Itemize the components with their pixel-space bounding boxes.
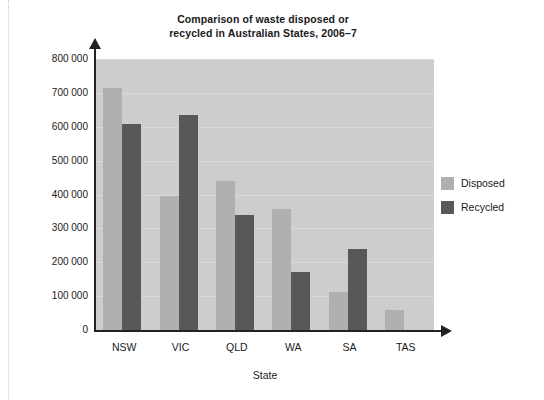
x-axis-tick-label-nsw: NSW [96,341,152,353]
bar-qld-disposed [216,181,235,330]
bar-wa-disposed [272,209,291,330]
x-axis-tick-label-vic: VIC [152,341,208,353]
legend-label-disposed: Disposed [461,177,505,189]
legend-swatch-disposed-icon [441,177,454,190]
bar-nsw-recycled [122,124,141,330]
y-axis-tick-label: 600 000 [24,121,88,132]
chart-title-line-2: recycled in Australian States, 2006–7 [118,26,408,40]
bar-sa-recycled [348,249,367,330]
y-axis-arrowhead [89,38,101,49]
y-axis-tick-labels: 0100 000200 000300 000400 000500 000600 … [18,59,88,330]
bar-vic-disposed [160,196,179,330]
y-axis-tick-label: 400 000 [24,189,88,200]
chart-figure: Comparison of waste disposed or recycled… [0,0,544,400]
bar-sa-disposed [329,292,348,330]
bar-qld-recycled [235,215,254,330]
x-axis-tick-label-qld: QLD [209,341,265,353]
legend-swatch-recycled-icon [441,201,454,214]
bar-nsw-disposed [103,88,122,330]
chart-legend: Disposed Recycled [441,176,541,224]
y-axis-tick-label: 100 000 [24,290,88,301]
x-axis-label: State [96,369,434,381]
legend-item-disposed: Disposed [441,176,541,190]
y-axis-tick-label: 800 000 [24,53,88,64]
chart-title: Comparison of waste disposed or recycled… [118,12,408,40]
y-axis-line [94,46,96,331]
page-edge-dotted-rule [8,0,9,400]
y-axis-tick-label: 700 000 [24,87,88,98]
x-axis-line [94,330,443,332]
x-axis-tick-label-tas: TAS [378,341,434,353]
bar-wa-recycled [291,272,310,330]
y-axis-tick-label: 500 000 [24,155,88,166]
bar-vic-recycled [179,115,198,330]
y-axis-tick-label: 0 [24,324,88,335]
bar-tas-disposed [385,310,404,330]
bars-group [96,59,434,330]
y-axis-tick-label: 200 000 [24,256,88,267]
x-axis-tick-label-sa: SA [321,341,377,353]
legend-label-recycled: Recycled [461,201,504,213]
x-axis-tick-label-wa: WA [265,341,321,353]
x-axis-arrowhead [441,325,452,337]
plot-area [96,59,434,330]
y-axis-tick-label: 300 000 [24,222,88,233]
chart-title-line-1: Comparison of waste disposed or [118,12,408,26]
legend-item-recycled: Recycled [441,200,541,214]
